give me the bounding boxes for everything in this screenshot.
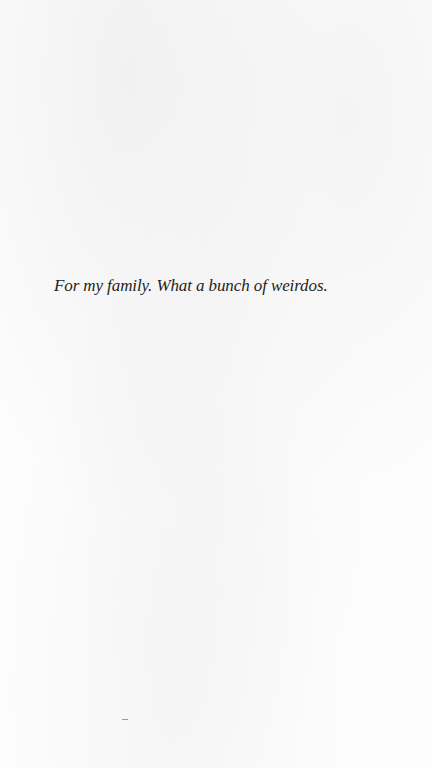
book-page: For my family. What a bunch of weirdos. [0,0,432,768]
dedication-text: For my family. What a bunch of weirdos. [54,276,328,296]
page-mark [122,719,128,720]
